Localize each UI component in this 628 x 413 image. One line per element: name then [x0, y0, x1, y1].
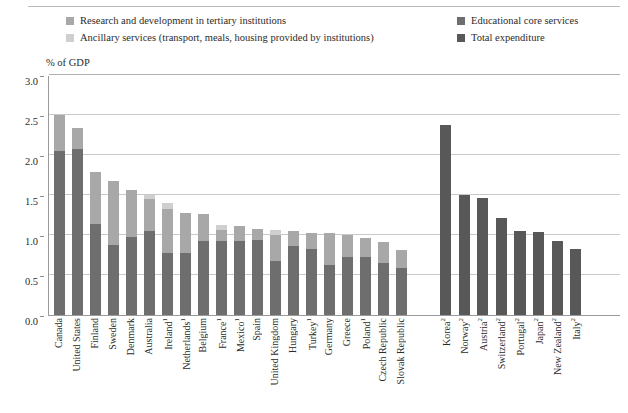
bar-segment-rnd	[252, 229, 263, 240]
y-tick-mark	[40, 316, 44, 317]
x-tick-label: Australia	[143, 318, 154, 355]
x-tick-label: Belgium	[197, 318, 208, 352]
bar-segment-total	[477, 198, 488, 315]
bar-segment-rnd	[342, 235, 353, 257]
x-tick-label: Mexico1	[233, 318, 246, 352]
bar-segment-total	[533, 232, 544, 315]
x-tick-label: Denmark	[125, 318, 136, 355]
x-tick-label: Turkey1	[305, 318, 318, 350]
bar-new-zealand	[552, 241, 563, 315]
bar-segment-rnd	[90, 172, 101, 224]
bar-segment-total	[514, 231, 525, 315]
legend-label-ancillary: Ancillary services (transport, meals, ho…	[80, 32, 374, 43]
bar-segment-core	[108, 245, 119, 315]
x-tick-label: Netherlands1	[179, 318, 192, 370]
y-axis-title: % of GDP	[46, 57, 90, 68]
x-tick-label: France1	[215, 318, 228, 349]
bar-segment-core	[162, 253, 173, 315]
x-tick-label: Slovak Republic	[395, 318, 406, 384]
legend-label-core: Educational core services	[471, 15, 578, 26]
x-tick-label: United States	[71, 318, 82, 372]
bar-segment-core	[342, 257, 353, 315]
legend-swatch-total-icon	[457, 34, 465, 42]
bar-segment-total	[459, 195, 470, 315]
x-tick-label: Switzerland2	[494, 318, 507, 369]
bar-segment-rnd	[162, 209, 173, 254]
x-tick-label: United Kingdom	[269, 318, 280, 386]
top-divider	[28, 6, 620, 7]
gridline	[49, 74, 620, 75]
legend-swatch-core-icon	[457, 17, 465, 25]
legend-label-total: Total expenditure	[471, 32, 545, 43]
bar-segment-core	[72, 149, 83, 315]
bar-segment-core	[288, 246, 299, 315]
bar-finland	[90, 172, 101, 315]
bar-poland	[360, 238, 371, 315]
bar-segment-core	[180, 253, 191, 315]
bar-segment-rnd	[360, 238, 371, 256]
plot-area	[48, 76, 620, 316]
bar-segment-rnd	[126, 190, 137, 236]
bar-mexico	[234, 226, 245, 315]
bar-portugal	[514, 231, 525, 315]
bar-segment-core	[216, 241, 227, 315]
x-tick-label: Sweden	[107, 318, 118, 350]
x-tick-label: New Zealand2	[550, 318, 563, 375]
bar-segment-rnd	[270, 235, 281, 261]
x-tick-label: Italy2	[569, 318, 582, 340]
bar-segment-rnd	[108, 181, 119, 245]
bar-segment-core	[252, 240, 263, 315]
bar-denmark	[126, 190, 137, 315]
bar-switzerland	[496, 218, 507, 315]
x-tick-label: Finland	[89, 318, 100, 349]
bar-segment-core	[378, 263, 389, 315]
x-tick-label: Ireland1	[161, 318, 174, 350]
x-tick-label: Korea2	[439, 318, 452, 346]
bar-czech-republic	[378, 242, 389, 315]
bar-segment-core	[306, 249, 317, 315]
x-tick-label: Spain	[251, 318, 262, 341]
bar-segment-core	[144, 231, 155, 315]
bar-japan	[533, 232, 544, 315]
bar-segment-core	[54, 151, 65, 315]
bar-segment-core	[324, 265, 335, 315]
y-tick-mark	[40, 236, 44, 237]
bar-segment-rnd	[324, 233, 335, 266]
x-tick-label: Portugal2	[513, 318, 526, 355]
bar-segment-total	[496, 218, 507, 315]
y-tick-mark	[40, 276, 44, 277]
y-tick-mark	[40, 196, 44, 197]
bar-korea	[440, 125, 451, 315]
x-tick-label: Poland1	[359, 318, 372, 349]
bar-segment-rnd	[198, 214, 209, 240]
x-tick-label: Japan2	[532, 318, 545, 344]
bar-united-states	[72, 128, 83, 315]
bar-segment-core	[270, 261, 281, 315]
bar-hungary	[288, 231, 299, 315]
bar-segment-total	[440, 125, 451, 315]
x-axis-tick-labels: CanadaUnited StatesFinlandSwedenDenmarkA…	[48, 318, 620, 413]
bar-austria	[477, 198, 488, 315]
bar-netherlands	[180, 213, 191, 315]
legend-item-ancillary: Ancillary services (transport, meals, ho…	[66, 29, 374, 46]
legend-item-core: Educational core services	[457, 12, 578, 29]
x-tick-label: Canada	[53, 318, 64, 348]
x-tick-label: Norway2	[457, 318, 470, 354]
bar-italy	[570, 249, 581, 315]
bar-australia	[144, 195, 155, 315]
bar-segment-rnd	[378, 242, 389, 263]
bar-segment-core	[396, 268, 407, 315]
bar-segment-rnd	[54, 115, 65, 151]
y-tick-mark	[40, 76, 44, 77]
bar-segment-rnd	[306, 233, 317, 248]
bar-slovak-republic	[396, 250, 407, 315]
bar-belgium	[198, 214, 209, 315]
bar-segment-total	[570, 249, 581, 315]
bar-norway	[459, 195, 470, 315]
bar-segment-core	[126, 237, 137, 315]
x-tick-label: Greece	[341, 318, 352, 346]
bar-canada	[54, 115, 65, 315]
legend-column-right: Educational core servicesTotal expenditu…	[457, 12, 578, 46]
y-tick-mark	[40, 116, 44, 117]
bar-segment-rnd	[234, 226, 245, 241]
